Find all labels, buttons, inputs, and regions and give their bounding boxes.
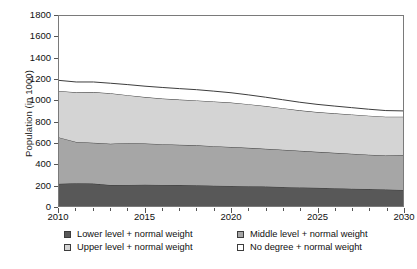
x-minor-tick-mark [93, 208, 94, 211]
legend-entry[interactable]: Middle level + normal weight [231, 229, 404, 240]
y-tick-label: 1200 [11, 74, 51, 84]
x-tick-label: 2020 [206, 211, 256, 222]
legend-entry[interactable]: Upper level + normal weight [64, 242, 231, 253]
y-tick-label: 400 [11, 159, 51, 169]
y-tick-label: 600 [11, 138, 51, 148]
x-tick-label: 2030 [379, 211, 417, 222]
y-tick-label: 1400 [11, 53, 51, 63]
x-minor-tick-mark [179, 208, 180, 211]
area-series-svg [59, 16, 403, 206]
legend-label: No degree + normal weight [250, 242, 362, 253]
y-tick-label: 200 [11, 181, 51, 191]
x-minor-tick-mark [283, 208, 284, 211]
legend-swatch-icon [64, 244, 71, 251]
legend-swatch-icon [64, 231, 71, 238]
legend-label: Lower level + normal weight [77, 229, 193, 240]
y-axis-title: Population (in 1000) [23, 24, 34, 204]
x-tick-label: 2015 [120, 211, 170, 222]
y-tick-label: 1800 [11, 10, 51, 20]
plot-area [58, 15, 404, 207]
x-minor-tick-mark [266, 208, 267, 211]
x-minor-tick-mark [352, 208, 353, 211]
legend-entry[interactable]: Lower level + normal weight [64, 229, 231, 240]
legend-row: Upper level + normal weightNo degree + n… [64, 241, 404, 254]
x-minor-tick-mark [196, 208, 197, 211]
x-tick-label: 2010 [33, 211, 83, 222]
y-tick-label: 1000 [11, 95, 51, 105]
legend-entry[interactable]: No degree + normal weight [231, 242, 404, 253]
legend-label: Upper level + normal weight [77, 242, 193, 253]
x-minor-tick-mark [110, 208, 111, 211]
legend-swatch-icon [237, 244, 244, 251]
x-tick-label: 2025 [293, 211, 343, 222]
legend-label: Middle level + normal weight [250, 229, 368, 240]
legend-swatch-icon [237, 231, 244, 238]
chart-legend: Lower level + normal weightMiddle level … [64, 228, 404, 254]
stacked-area-chart: Population (in 1000) 1800160014001200100… [0, 0, 417, 269]
legend-row: Lower level + normal weightMiddle level … [64, 228, 404, 241]
y-tick-label: 1600 [11, 31, 51, 41]
x-minor-tick-mark [369, 208, 370, 211]
y-tick-label: 800 [11, 117, 51, 127]
